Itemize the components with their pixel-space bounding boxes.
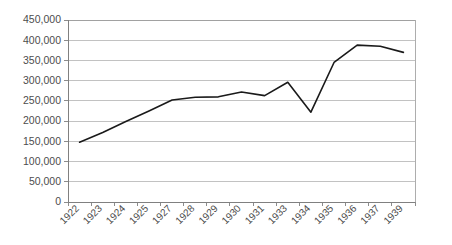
- y-axis-label-150000: 150,000: [23, 135, 61, 147]
- y-axis-label-300000: 300,000: [23, 74, 61, 86]
- y-axis-label-250000: 250,000: [23, 94, 61, 106]
- y-axis-label-0: 0: [55, 195, 61, 207]
- y-axis-label-50000: 50,000: [29, 175, 61, 187]
- y-axis-label-200000: 200,000: [23, 114, 61, 126]
- line-chart-figure: 050,000100,000150,000200,000250,000300,0…: [0, 0, 452, 245]
- y-axis-label-350000: 350,000: [23, 54, 61, 66]
- y-axis-label-400000: 400,000: [23, 34, 61, 46]
- y-axis-label-100000: 100,000: [23, 155, 61, 167]
- y-axis-label-450000: 450,000: [23, 13, 61, 25]
- chart-canvas: 050,000100,000150,000200,000250,000300,0…: [0, 0, 452, 245]
